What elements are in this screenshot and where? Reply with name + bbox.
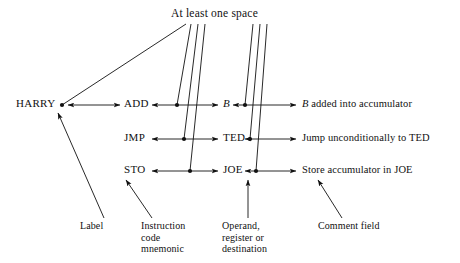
comment-caption-line-0: Comment field — [318, 220, 380, 232]
operand-caption-line-1: register or — [222, 232, 267, 244]
instruction-caption: Instructioncodemnemonic — [141, 220, 185, 255]
dot-b — [243, 103, 247, 107]
row-operand-ted: TED — [223, 132, 245, 143]
operand-caption-line-2: destination — [222, 243, 267, 255]
row-mnemonic-sto: STO — [124, 164, 145, 175]
instruction-caption-line-2: mnemonic — [141, 243, 185, 255]
dot-jmp — [182, 137, 186, 141]
leader-label-caption — [58, 113, 104, 218]
instruction-caption-line-1: code — [141, 232, 185, 244]
dot-joe — [254, 169, 258, 173]
diagram-canvas: At least one space HARRY ADD B B added i… — [0, 0, 460, 263]
row-operand-b: B — [223, 98, 230, 109]
row-comment-jmp: Jump unconditionally to TED — [302, 133, 430, 144]
leader-space-sto-1 — [190, 24, 205, 171]
dot-ted — [248, 137, 252, 141]
row-mnemonic-jmp: JMP — [124, 132, 145, 143]
row-mnemonic-add: ADD — [124, 98, 149, 109]
instruction-caption-line-0: Instruction — [141, 220, 185, 232]
leader-title-harry — [62, 24, 186, 105]
leader-space-add-1 — [177, 24, 191, 105]
diagram-title: At least one space — [171, 8, 258, 20]
dot-add — [175, 103, 179, 107]
dot-sto — [188, 169, 192, 173]
label-caption: Label — [80, 220, 103, 232]
row-comment-sto: Store accumulator in JOE — [302, 165, 413, 176]
operand-caption-line-0: Operand, — [222, 220, 267, 232]
row-comment-add-rest: added into accumulator — [309, 98, 412, 109]
comment-caption: Comment field — [318, 220, 380, 232]
caption-leader-lines — [58, 113, 342, 218]
row-operand-joe: JOE — [223, 164, 243, 175]
title-leader-lines — [62, 24, 267, 171]
dot-harry — [60, 103, 64, 107]
leader-space-jmp-1 — [184, 24, 198, 139]
operand-caption: Operand,register ordestination — [222, 220, 267, 255]
label-caption-line-0: Label — [80, 220, 103, 232]
leader-comment-caption — [318, 180, 342, 218]
leader-instruction-caption — [126, 180, 152, 218]
row-label-harry: HARRY — [16, 98, 55, 109]
leader-space-b-1 — [245, 24, 253, 105]
row-comment-add: B added into accumulator — [302, 99, 412, 110]
row-connectors — [68, 105, 296, 171]
